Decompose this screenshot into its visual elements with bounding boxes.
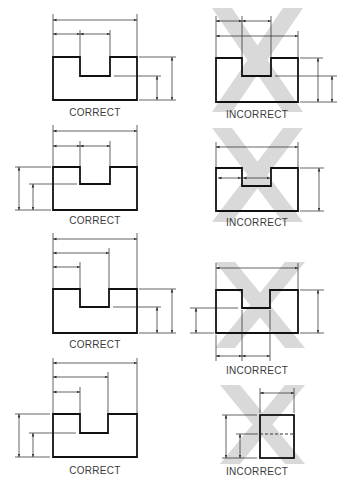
panel-6-label: INCORRECT [226, 365, 288, 376]
panel-3 [15, 125, 137, 210]
panel-4-label: INCORRECT [226, 217, 288, 228]
part-outline [53, 414, 137, 457]
part-outline [53, 289, 137, 333]
cross-panel-8 [220, 385, 305, 464]
panel-3-label: CORRECT [69, 215, 121, 226]
panel-7 [15, 358, 137, 457]
panel-7-label: CORRECT [69, 465, 121, 476]
panel-8-label: INCORRECT [226, 466, 288, 477]
cross-panel-2 [212, 8, 303, 112]
panel-5-label: CORRECT [69, 339, 121, 350]
panel-1-label: CORRECT [69, 107, 121, 118]
panel-2-label: INCORRECT [226, 109, 288, 120]
part-outline [53, 167, 137, 210]
cross-panel-6 [215, 262, 305, 348]
cross-panel-4 [212, 128, 303, 222]
part-outline [53, 57, 137, 100]
dimensioning-diagram [0, 0, 343, 491]
panel-1 [53, 14, 176, 100]
panel-5 [53, 233, 176, 333]
